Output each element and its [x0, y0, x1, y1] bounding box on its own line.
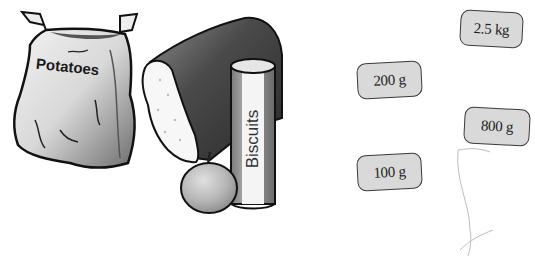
weight-card-800g[interactable]: 800 g — [463, 106, 531, 146]
weight-label: 2.5 kg — [473, 20, 510, 39]
weight-card-200g[interactable]: 200 g — [356, 60, 423, 99]
string-scribble — [458, 149, 493, 256]
weight-label: 800 g — [480, 117, 513, 136]
weight-card-2-5kg[interactable]: 2.5 kg — [459, 9, 524, 48]
biscuits-label: Biscuits — [243, 104, 263, 174]
weight-label: 100 g — [373, 163, 406, 182]
weight-label: 200 g — [373, 71, 406, 90]
potato-bag-icon — [14, 12, 137, 168]
food-illustration — [0, 0, 535, 256]
worksheet-scene: Potatoes Biscuits 2.5 kg 200 g 800 g 100… — [0, 0, 535, 256]
weight-card-100g[interactable]: 100 g — [356, 152, 423, 191]
